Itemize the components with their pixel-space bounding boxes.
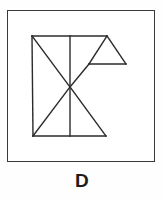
figure-border-frame: [7, 10, 155, 162]
figure-caption-label: D: [0, 168, 164, 194]
figure-panel: D: [0, 0, 164, 200]
